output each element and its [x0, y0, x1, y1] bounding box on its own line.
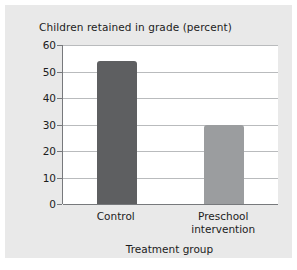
gridline: [63, 178, 278, 179]
bar-control[interactable]: [97, 61, 137, 204]
plot-area: [62, 45, 278, 204]
x-tick-label-line: intervention: [170, 223, 278, 236]
y-tick-label: 30: [10, 119, 56, 131]
bar-preschool-intervention[interactable]: [204, 125, 244, 205]
y-tick-label: 60: [10, 39, 56, 51]
gridline: [63, 151, 278, 152]
gridline: [63, 98, 278, 99]
y-tick-label: 0: [10, 198, 56, 210]
axis-baseline: [63, 204, 278, 205]
x-tick-label: Preschoolintervention: [170, 210, 278, 236]
x-tick-label-line: Control: [62, 210, 170, 223]
x-tick-label-line: Preschool: [170, 210, 278, 223]
gridline: [63, 45, 278, 46]
y-tick-label: 20: [10, 145, 56, 157]
figure-root: Children retained in grade (percent) 010…: [0, 0, 297, 270]
y-tick-label: 50: [10, 66, 56, 78]
y-tick-label: 40: [10, 92, 56, 104]
x-axis-title: Treatment group: [62, 243, 277, 255]
gridline: [63, 72, 278, 73]
x-tick-label: Control: [62, 210, 170, 223]
y-tick-mark: [57, 204, 62, 205]
gridline: [63, 125, 278, 126]
chart-title: Children retained in grade (percent): [39, 21, 232, 33]
y-tick-label: 10: [10, 172, 56, 184]
chart-panel: Children retained in grade (percent) 010…: [5, 5, 292, 258]
